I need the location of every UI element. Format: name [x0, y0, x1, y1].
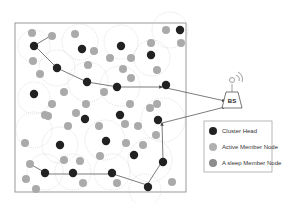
- legend-active-icon: [209, 143, 217, 151]
- antenna-icon: [230, 78, 235, 83]
- legend-cluster-head-label: Cluster Head: [222, 128, 257, 134]
- base-station: BS: [222, 72, 243, 108]
- bs-label: BS: [228, 98, 236, 104]
- legend-active-label: Active Member Node: [222, 144, 279, 150]
- member-nodes: [21, 26, 185, 193]
- signal-icon: [236, 72, 243, 82]
- legend: Cluster Head Active Member Node A sleep …: [204, 121, 282, 172]
- network-area: [15, 23, 186, 192]
- legend-cluster-head-icon: [209, 127, 217, 135]
- legend-sleep-icon: [209, 159, 217, 167]
- legend-sleep-label: A sleep Member Node: [222, 160, 282, 166]
- wsn-diagram: BS Cluster Head Active Member Node A sle…: [0, 0, 286, 203]
